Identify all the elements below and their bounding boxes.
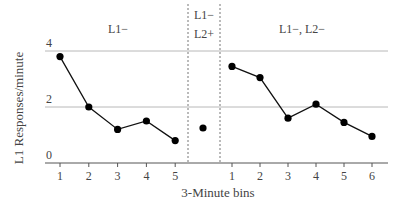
phase-label: L1−	[194, 8, 214, 22]
data-point	[85, 103, 92, 110]
phase-label: L2+	[194, 27, 214, 41]
data-point	[172, 137, 179, 144]
data-point	[340, 119, 347, 126]
data-point	[56, 53, 63, 60]
data-point	[143, 117, 150, 124]
x-tick-label: 2	[86, 169, 92, 183]
y-tick-label: 2	[46, 92, 52, 106]
data-point	[114, 126, 121, 133]
y-axis-label: L1 Responses/minute	[11, 52, 26, 165]
data-point	[256, 74, 263, 81]
x-tick-label: 5	[341, 169, 347, 183]
x-tick-label: 4	[313, 169, 319, 183]
gridlines	[45, 51, 388, 107]
data-point	[284, 115, 291, 122]
x-tick-label: 3	[285, 169, 291, 183]
x-tick-label: 5	[172, 169, 178, 183]
x-axis-label: 3-Minute bins	[181, 185, 254, 200]
x-tick-label: 2	[257, 169, 263, 183]
chart: 024 12345123456 L1−L1−L2+L1−, L2− 3-Minu…	[0, 0, 409, 211]
y-tick-label: 4	[46, 36, 52, 50]
y-tick-labels: 024	[46, 36, 52, 162]
phase-label: L1−, L2−	[279, 22, 325, 36]
x-tick-label: 1	[229, 169, 235, 183]
x-tick-label: 1	[57, 169, 63, 183]
x-tick-label: 3	[115, 169, 121, 183]
x-tick-label: 4	[143, 169, 149, 183]
axes	[45, 163, 388, 167]
series-line	[232, 66, 372, 136]
phase-labels: L1−L1−L2+L1−, L2−	[108, 8, 325, 41]
y-tick-label: 0	[46, 148, 52, 162]
phase-label: L1−	[108, 22, 128, 36]
x-tick-label: 6	[369, 169, 375, 183]
data-point	[312, 101, 319, 108]
data-point	[368, 133, 375, 140]
data-point	[228, 63, 235, 70]
data-series	[56, 53, 375, 144]
x-tick-labels: 12345123456	[57, 169, 375, 183]
data-point	[199, 124, 206, 131]
